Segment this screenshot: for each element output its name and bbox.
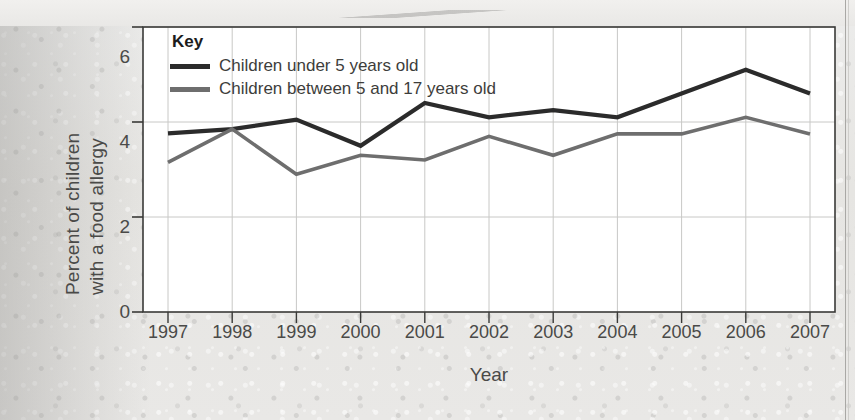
x-tick-label: 1998 [202, 322, 262, 343]
legend-title: Key [172, 32, 530, 52]
legend-label-under5: Children under 5 years old [219, 56, 418, 76]
x-tick-label: 2003 [523, 322, 583, 343]
y-tick-label-4: 4 [100, 131, 130, 153]
y-tick-label-2: 2 [100, 216, 130, 238]
x-tick-label: 2006 [716, 322, 776, 343]
x-tick-label: 1999 [266, 322, 326, 343]
y-tick-label-6: 6 [100, 46, 130, 68]
x-axis-title: Year [389, 364, 589, 386]
legend-item-5to17: Children between 5 and 17 years old [170, 79, 530, 99]
food-allergy-line-chart: Percent of children with a food allergy … [0, 0, 855, 420]
x-tick-label: 1997 [138, 322, 198, 343]
y-axis-title-line1: Percent of children [62, 133, 84, 295]
x-tick-label: 2004 [587, 322, 647, 343]
legend-swatch-under5 [170, 64, 210, 69]
x-tick-label: 2005 [652, 322, 712, 343]
chart-legend: Key Children under 5 years old Children … [170, 32, 530, 102]
legend-item-under5: Children under 5 years old [170, 56, 530, 76]
y-tick-label-0: 0 [100, 301, 130, 323]
x-tick-label: 2002 [459, 322, 519, 343]
legend-swatch-5to17 [170, 87, 210, 92]
x-tick-label: 2000 [331, 322, 391, 343]
legend-label-5to17: Children between 5 and 17 years old [219, 79, 496, 99]
x-tick-label: 2001 [395, 322, 455, 343]
x-tick-label: 2007 [780, 322, 840, 343]
